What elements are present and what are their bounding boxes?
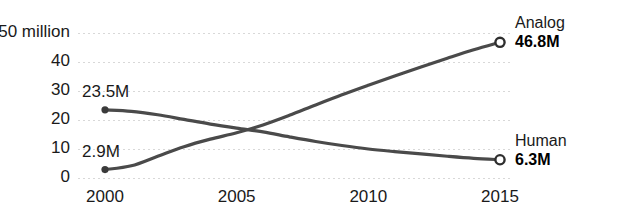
x-tick-label: 2005 — [218, 187, 256, 206]
annotation-human-start: 23.5M — [82, 82, 129, 101]
chart-canvas: 01020304050 million 2000200520102015 23.… — [0, 0, 620, 224]
x-tick-label: 2000 — [86, 187, 124, 206]
y-tick-label: 20 — [51, 109, 70, 128]
end-marker-analog — [495, 38, 504, 47]
x-tick-label: 2015 — [481, 187, 519, 206]
y-tick-label: 40 — [51, 51, 70, 70]
series-label-analog: Analog — [515, 14, 565, 31]
line-chart: 01020304050 million 2000200520102015 23.… — [0, 0, 620, 224]
start-marker-human — [101, 106, 108, 113]
series-value-analog: 46.8M — [515, 33, 559, 50]
y-tick-label: 10 — [51, 138, 70, 157]
annotation-analog-start: 2.9M — [82, 142, 120, 161]
y-tick-label: 30 — [51, 80, 70, 99]
end-marker-human — [495, 155, 504, 164]
y-tick-label: 50 million — [0, 22, 70, 41]
x-tick-label: 2010 — [349, 187, 387, 206]
series-label-human: Human — [515, 132, 567, 149]
series-value-human: 6.3M — [515, 151, 551, 168]
y-tick-label: 0 — [61, 167, 70, 186]
start-marker-analog — [101, 166, 108, 173]
